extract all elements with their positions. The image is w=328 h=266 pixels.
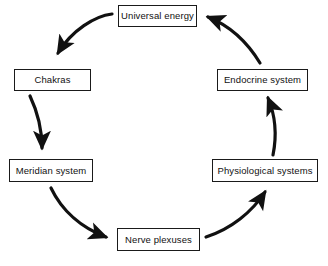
node-endocrine-system[interactable]: Endocrine system — [217, 69, 308, 91]
node-physiological-systems[interactable]: Physiological systems — [212, 159, 318, 182]
node-meridian-system-label: Meridian system — [13, 166, 90, 176]
edge-nerve-to-physiological — [206, 192, 265, 237]
edge-universal-to-chakras — [58, 14, 112, 53]
arrow-layer — [0, 0, 328, 266]
edge-meridian-to-nerve — [51, 188, 106, 237]
cycle-diagram: Universal energy Endocrine system Physio… — [0, 0, 328, 266]
node-chakras-label: Chakras — [31, 75, 73, 85]
node-physiological-systems-label: Physiological systems — [214, 166, 315, 176]
node-endocrine-system-label: Endocrine system — [221, 75, 304, 85]
node-universal-energy[interactable]: Universal energy — [118, 5, 197, 27]
node-meridian-system[interactable]: Meridian system — [9, 159, 93, 182]
node-chakras[interactable]: Chakras — [14, 69, 91, 91]
edge-chakras-to-meridian — [30, 96, 42, 148]
node-nerve-plexuses[interactable]: Nerve plexuses — [117, 228, 200, 251]
edge-physiological-to-endocrine — [268, 98, 275, 155]
node-universal-energy-label: Universal energy — [118, 11, 197, 21]
edge-endocrine-to-universal — [208, 17, 260, 63]
node-nerve-plexuses-label: Nerve plexuses — [122, 235, 195, 245]
